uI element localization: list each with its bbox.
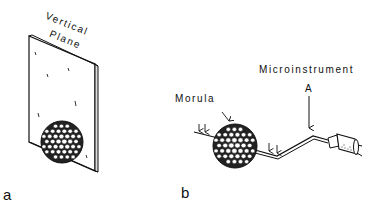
morula-cell bbox=[220, 149, 225, 153]
morula-cell bbox=[247, 143, 252, 147]
morula-cell bbox=[77, 134, 81, 138]
morula-cell bbox=[62, 139, 67, 144]
morula-cell bbox=[238, 138, 243, 143]
morula-cell bbox=[226, 149, 231, 154]
morula-cell bbox=[232, 127, 237, 131]
morula-cell bbox=[232, 149, 237, 154]
microinstrument-needle bbox=[255, 136, 328, 159]
morula-cell bbox=[53, 124, 57, 128]
morula-cell bbox=[232, 160, 237, 164]
morula-cell bbox=[62, 150, 67, 154]
morula-cell bbox=[59, 124, 63, 128]
morula-cell bbox=[74, 129, 78, 133]
morula-cell bbox=[241, 143, 246, 148]
morula-cell bbox=[223, 133, 228, 137]
morula-cell bbox=[65, 144, 70, 148]
morula-cell bbox=[251, 138, 255, 142]
morula-cell bbox=[53, 144, 58, 148]
morula-cell bbox=[229, 143, 234, 148]
morula-cell bbox=[235, 133, 240, 137]
morula-cell bbox=[241, 133, 246, 137]
morula-cell bbox=[47, 134, 52, 138]
morula-cell bbox=[74, 150, 78, 154]
morula-cell bbox=[65, 124, 69, 128]
morula-cell bbox=[71, 145, 76, 149]
morula-cell bbox=[50, 129, 54, 133]
morula-cell bbox=[238, 149, 243, 154]
pressure-arrows-right bbox=[269, 143, 277, 153]
morula-cell bbox=[217, 154, 221, 158]
morula-cell bbox=[56, 139, 61, 144]
morula-cell bbox=[247, 154, 251, 158]
morula-cell bbox=[45, 140, 49, 144]
morula-cell bbox=[59, 144, 64, 149]
morula-cell bbox=[53, 134, 58, 138]
morula-cell bbox=[250, 149, 254, 153]
panel-letter-a: a bbox=[3, 186, 11, 203]
morula-cell bbox=[229, 154, 234, 158]
morula-cell bbox=[42, 145, 46, 149]
morula-cell bbox=[53, 155, 57, 159]
morula-cell bbox=[232, 138, 237, 143]
morula-cell bbox=[45, 129, 49, 133]
morula-cell bbox=[244, 160, 248, 164]
morula-panel-b bbox=[213, 124, 257, 168]
morula-cell bbox=[50, 150, 55, 154]
morula-pointer-arrow bbox=[222, 112, 229, 121]
morula-cell bbox=[247, 133, 251, 137]
morula-cell bbox=[68, 139, 73, 143]
microinstrument-holder bbox=[328, 134, 362, 156]
label-morula: Morula bbox=[175, 93, 215, 104]
morula-cell bbox=[50, 139, 55, 143]
morula-cell bbox=[65, 155, 69, 159]
morula-panel-a bbox=[41, 121, 83, 163]
morula-cell bbox=[226, 160, 231, 164]
morula-cell bbox=[42, 135, 46, 139]
morula-cell bbox=[214, 149, 218, 153]
morula-cell bbox=[238, 127, 243, 131]
label-microinstrument: Microinstrument bbox=[259, 64, 354, 75]
morula-cell bbox=[71, 134, 76, 138]
morula-cell bbox=[223, 143, 228, 147]
morula-cell bbox=[226, 138, 231, 143]
label-marker-a: A bbox=[305, 83, 312, 94]
morula-cell bbox=[65, 134, 70, 138]
morula-cell bbox=[56, 150, 61, 154]
morula-cell bbox=[68, 150, 73, 154]
morula-cell bbox=[229, 133, 234, 137]
morula-cell bbox=[244, 149, 249, 153]
morula-cell bbox=[47, 145, 52, 149]
morula-cell bbox=[71, 155, 75, 159]
morula-cell bbox=[45, 150, 49, 154]
morula-cell bbox=[62, 129, 67, 133]
morula-cell bbox=[220, 138, 225, 142]
morula-cell bbox=[217, 133, 221, 137]
morula-cell bbox=[241, 154, 246, 158]
morula-cell bbox=[214, 138, 218, 142]
morula-cell bbox=[223, 154, 228, 158]
morula-cell bbox=[59, 134, 64, 139]
morula-cell bbox=[235, 154, 240, 158]
morula-cell bbox=[77, 145, 81, 149]
morula-cell bbox=[68, 129, 73, 133]
morula-cell bbox=[238, 160, 243, 164]
morula-cell bbox=[235, 143, 240, 148]
panel-letter-b: b bbox=[181, 184, 189, 201]
pressure-arrows-left bbox=[199, 124, 205, 132]
morula-cell bbox=[59, 155, 63, 159]
morula-cell bbox=[244, 138, 249, 142]
morula-cell bbox=[226, 127, 230, 131]
morula-cell bbox=[74, 140, 78, 144]
morula-cell bbox=[56, 129, 61, 133]
morula-cell bbox=[217, 143, 222, 147]
